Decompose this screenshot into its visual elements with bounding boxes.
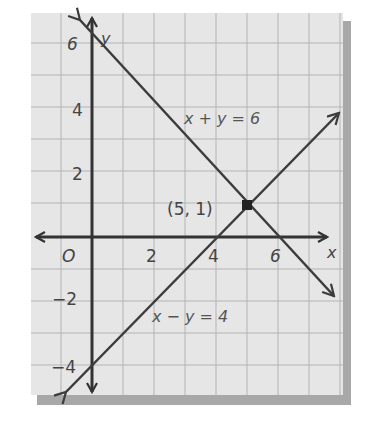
y-tick-6: 6	[67, 34, 78, 54]
y-tick-minus-4: −4	[51, 357, 76, 377]
y-tick-4: 4	[72, 100, 83, 120]
x-axis-label: x	[326, 243, 337, 262]
y-axis-label: y	[100, 29, 111, 48]
intersection-point-label: (5, 1)	[167, 199, 213, 219]
x-tick-4: 4	[208, 246, 219, 266]
graph: O 2 4 6 x 6 4 2 −2 −4 y x + y = 6 x − y …	[0, 0, 366, 438]
y-tick-minus-2: −2	[52, 289, 77, 309]
x-tick-2: 2	[146, 246, 157, 266]
x-tick-6: 6	[270, 246, 281, 266]
equation-label-x-plus-y: x + y = 6	[183, 109, 260, 128]
intersection-point-marker	[242, 200, 252, 210]
origin-label: O	[62, 246, 75, 266]
y-tick-2: 2	[72, 164, 83, 184]
equation-label-x-minus-y: x − y = 4	[151, 307, 228, 326]
